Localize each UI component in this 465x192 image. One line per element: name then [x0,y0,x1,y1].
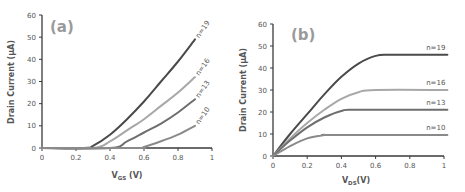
x-tick-label: 0.2 [70,154,81,162]
curve-n-10 [273,135,447,156]
y-tick-label: 60 [27,12,36,20]
x-tick-label: 0.4 [104,154,116,162]
x-tick-label: 0.6 [370,162,382,170]
series-label: n=13 [426,99,445,107]
curve-n-19 [42,39,195,148]
plot-area-b [273,55,447,156]
x-tick-label: 0 [40,154,44,162]
y-tick-label: 40 [258,65,267,73]
x-axis-title-a: VGS (V) [112,171,143,181]
x-tick-label: 1 [210,154,214,162]
y-tick-label: 30 [258,87,267,95]
x-axis-a: 00.20.40.60.81 VGS (V) [40,148,214,181]
series-labels-a: n=19n=16n=13n=10 [194,19,212,126]
x-tick-label: 0 [271,162,275,170]
x-tick-label: 1 [442,162,446,170]
y-tick-label: 20 [27,100,36,108]
x-axis-b: 00.20.40.60.81 VDS(V) [271,156,446,186]
y-tick-label: 10 [27,122,36,130]
y-tick-label: 30 [27,78,36,86]
y-tick-label: 50 [258,43,267,51]
series-label: n=13 [194,79,212,99]
x-tick-label: 0.8 [404,162,415,170]
y-axis-title-b: Drain Current (µA) [239,48,248,132]
y-tick-label: 0 [32,145,36,153]
panel-label-b: (b) [291,26,315,44]
y-tick-label: 40 [27,56,36,64]
y-axis-b: 0102030405060 Drain Current (µA) [239,21,273,161]
plot-area-a [42,39,195,148]
series-label: n=10 [194,106,212,126]
x-tick-label: 0.6 [138,154,150,162]
y-tick-label: 50 [27,34,36,42]
chart-a-svg: (a) 0102030405060 Drain Current (µA) 00.… [0,0,230,192]
chart-b-svg: (b) 0102030405060 Drain Current (µA) 00.… [230,0,465,192]
x-tick-label: 0.4 [336,162,348,170]
x-tick-label: 0.8 [172,154,183,162]
chart-panel-b: (b) 0102030405060 Drain Current (µA) 00.… [230,0,465,192]
y-tick-label: 20 [258,109,267,117]
series-label: n=19 [194,19,212,39]
series-labels-b: n=19n=16n=13n=10 [426,44,446,132]
y-tick-label: 10 [258,131,267,139]
curve-n-13 [42,99,195,148]
series-label: n=16 [426,79,446,87]
x-axis-title-b: VDS(V) [342,176,370,186]
series-label: n=19 [426,44,445,52]
curve-n-13 [273,110,447,156]
panel-label-a: (a) [50,18,74,36]
x-tick-label: 0.2 [302,162,313,170]
y-axis-a: 0102030405060 Drain Current (µA) [7,12,42,153]
series-label: n=16 [194,56,212,77]
y-tick-label: 60 [258,21,267,29]
chart-panel-a: (a) 0102030405060 Drain Current (µA) 00.… [0,0,230,192]
y-axis-title-a: Drain Current (µA) [7,40,16,124]
series-label: n=10 [426,124,445,132]
y-tick-label: 0 [263,153,267,161]
